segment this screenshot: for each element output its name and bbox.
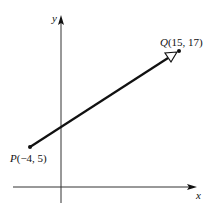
point-q-label: Q(15, 17) — [160, 36, 203, 49]
x-axis — [13, 184, 197, 190]
x-axis-label: x — [195, 189, 201, 201]
vector-arrowhead-icon — [165, 52, 177, 62]
diagram-canvas: y x Q(15, 17) P(−4, 5) — [0, 0, 211, 212]
point-q — [177, 49, 181, 53]
point-p-label: P(−4, 5) — [9, 152, 47, 165]
y-axis — [58, 15, 64, 203]
y-axis-label: y — [51, 12, 57, 24]
point-p — [28, 145, 32, 149]
vector-pq — [30, 52, 177, 147]
